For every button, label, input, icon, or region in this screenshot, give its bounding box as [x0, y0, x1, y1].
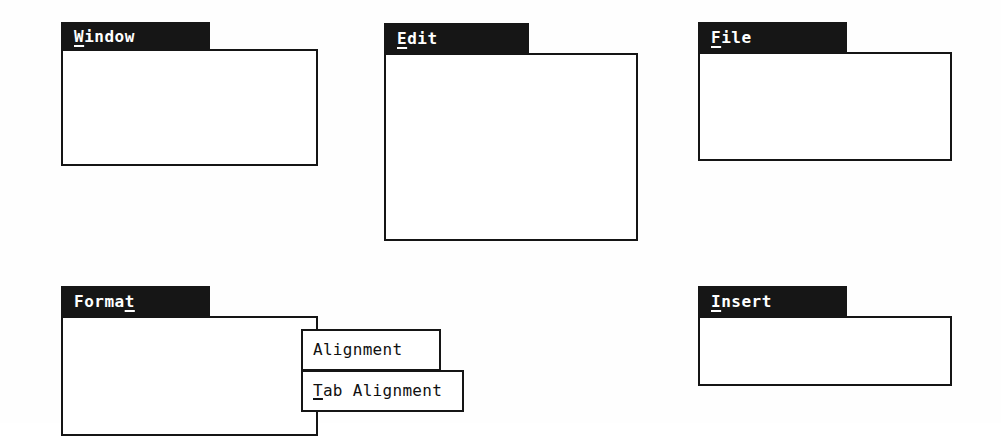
- submenu-item-alignment[interactable]: Alignment: [313, 340, 402, 359]
- menu-edit-title-mnemonic: E: [397, 29, 407, 48]
- menu-format-title[interactable]: Format: [61, 286, 210, 317]
- submenu-item-tab-alignment-mnemonic: T: [313, 381, 323, 400]
- menu-file-title[interactable]: File: [698, 22, 847, 53]
- menu-window-title[interactable]: Window: [61, 22, 210, 51]
- menu-window-title-rest: indow: [84, 27, 135, 46]
- menu-insert-body: [698, 316, 952, 386]
- menu-format-body: [61, 316, 318, 436]
- menu-edit-title-rest: dit: [407, 29, 437, 48]
- submenu-item-tab-alignment[interactable]: Tab Alignment: [313, 381, 442, 400]
- menu-insert-title-mnemonic: I: [711, 292, 721, 311]
- menu-format-title-lead: Forma: [74, 292, 125, 311]
- menu-window-body: [61, 49, 318, 166]
- submenu-alignment: Alignment: [301, 329, 441, 371]
- submenu-item-tab-alignment-label: ab Alignment: [323, 381, 442, 400]
- menu-edit-body: [384, 53, 638, 241]
- menu-file-title-mnemonic: F: [711, 28, 721, 47]
- menu-insert-title[interactable]: Insert: [698, 286, 847, 317]
- menu-file-title-rest: ile: [721, 28, 751, 47]
- menu-edit-title[interactable]: Edit: [384, 23, 529, 54]
- menu-file-body: [698, 52, 952, 161]
- menu-insert-title-rest: nsert: [721, 292, 772, 311]
- submenu-tab-alignment: Tab Alignment: [301, 370, 464, 412]
- menu-window-title-mnemonic: W: [74, 27, 84, 46]
- menu-format-title-mnemonic: t: [125, 292, 135, 311]
